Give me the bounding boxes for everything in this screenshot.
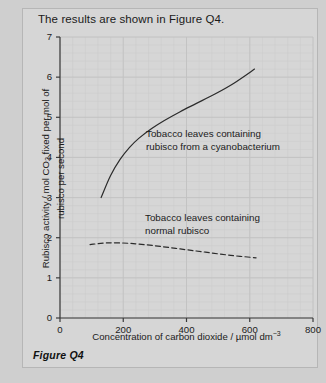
x-tick-label: 600 — [233, 324, 267, 335]
chart-figure: Rubisco activity / mol CO2 fixed per mol… — [0, 0, 326, 383]
y-tick-label: 3 — [38, 192, 52, 203]
annotation-normal-rubisco-line2: normal rubisco — [145, 225, 260, 238]
y-tick-label: 7 — [38, 31, 52, 42]
y-tick-label: 6 — [38, 71, 52, 82]
y-tick-label: 0 — [38, 312, 52, 323]
page-root: The results are shown in Figure Q4. Rubi… — [0, 0, 326, 383]
y-tick-label: 5 — [38, 111, 52, 122]
annotation-normal-rubisco-line1: Tobacco leaves containing — [145, 212, 260, 225]
y-tick-label: 4 — [38, 151, 52, 162]
x-tick-label: 0 — [43, 324, 77, 335]
figure-caption: Figure Q4 — [33, 349, 84, 361]
x-tick-label: 200 — [106, 324, 140, 335]
y-tick-label: 2 — [38, 232, 52, 243]
annotation-cyanobacterium-line1: Tobacco leaves containing — [146, 128, 280, 141]
y-tick-label: 1 — [38, 272, 52, 283]
x-tick-label: 400 — [170, 324, 204, 335]
x-tick-label: 800 — [296, 324, 326, 335]
annotation-cyanobacterium: Tobacco leaves containing rubisco from a… — [146, 128, 280, 153]
annotation-cyanobacterium-line2: rubisco from a cyanobacterium — [146, 141, 280, 154]
annotation-normal-rubisco: Tobacco leaves containing normal rubisco — [145, 212, 260, 237]
